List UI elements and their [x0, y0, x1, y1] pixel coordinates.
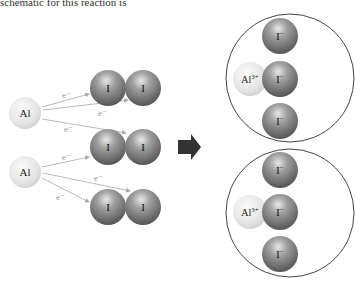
electron-label: e⁻	[64, 124, 73, 134]
svg-text:I: I	[141, 141, 145, 153]
electron-label: e⁻	[98, 108, 107, 118]
svg-text:I: I	[106, 141, 110, 153]
electron-label: e⁻	[62, 152, 71, 162]
reaction-diagram: e⁻ e⁻ e⁻ e⁻ e⁻ e⁻ Al Al I I I I I I	[0, 0, 355, 283]
svg-text:I: I	[106, 201, 110, 213]
svg-text:I: I	[106, 82, 110, 94]
svg-text:I: I	[141, 201, 145, 213]
electron-label: e⁻	[94, 173, 103, 183]
product-ion-group: Al3+ I− I− I−	[226, 14, 354, 142]
iodine-molecule: I I	[90, 189, 161, 225]
svg-text:I: I	[141, 82, 145, 94]
electron-label: e⁻	[56, 192, 65, 202]
aluminum-atom: Al	[9, 97, 41, 129]
svg-text:Al: Al	[20, 107, 31, 119]
iodine-molecule: I I	[90, 129, 161, 165]
svg-text:Al: Al	[20, 166, 31, 178]
reaction-arrow-icon	[178, 134, 201, 160]
electron-label: e⁻	[62, 90, 71, 100]
product-ion-group: Al3+ I− I− I−	[226, 149, 354, 277]
aluminum-atom: Al	[9, 156, 41, 188]
